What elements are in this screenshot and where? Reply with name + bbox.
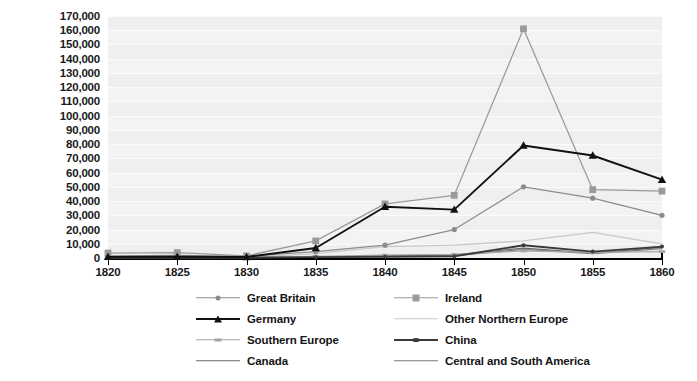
grid-band — [108, 215, 662, 229]
y-axis-tick-label: 70,000 — [66, 152, 100, 164]
grid-band — [108, 187, 662, 201]
x-axis-tick-mark — [662, 260, 663, 265]
grid-line — [108, 44, 662, 45]
legend-marker-square-icon — [413, 294, 420, 301]
legend-item[interactable]: Great Britain — [196, 288, 315, 307]
x-axis-tick-label: 1820 — [96, 266, 121, 278]
plot-area — [108, 16, 662, 258]
legend-swatch — [196, 313, 240, 325]
y-axis-tick-label: 130,000 — [60, 67, 100, 79]
y-axis-tick-label: 40,000 — [66, 195, 100, 207]
y-axis-tick-label: 30,000 — [66, 209, 100, 221]
grid-band — [108, 244, 662, 258]
legend-line-icon — [394, 318, 438, 320]
legend-item[interactable]: Other Northern Europe — [394, 309, 568, 328]
grid-line — [108, 116, 662, 117]
grid-line — [108, 73, 662, 74]
legend-label: Canada — [247, 355, 288, 367]
x-axis-tick-mark — [247, 260, 248, 265]
x-axis-tick-mark — [454, 260, 455, 265]
legend-label: Great Britain — [247, 292, 315, 304]
grid-line — [108, 87, 662, 88]
grid-band — [108, 158, 662, 172]
legend-marker-triangle-icon — [214, 315, 222, 322]
legend-swatch — [394, 355, 438, 367]
y-axis-tick-label: 120,000 — [60, 81, 100, 93]
y-axis-tick-label: 90,000 — [66, 124, 100, 136]
legend-marker-dash-icon — [215, 338, 222, 341]
x-axis-tick-label: 1845 — [442, 266, 467, 278]
y-axis-tick-label: 80,000 — [66, 138, 100, 150]
legend-marker-circle-icon — [216, 295, 221, 300]
x-axis-tick-mark — [593, 260, 594, 265]
grid-line — [108, 230, 662, 231]
y-axis-tick-label: 140,000 — [60, 53, 100, 65]
y-axis-labels: 010,00020,00030,00040,00050,00060,00070,… — [0, 10, 100, 264]
y-axis-tick-label: 170,000 — [60, 10, 100, 22]
y-axis-tick-label: 110,000 — [60, 95, 100, 107]
legend-swatch — [394, 292, 438, 304]
legend-swatch — [394, 313, 438, 325]
legend-label: Central and South America — [445, 355, 590, 367]
legend-swatch — [394, 334, 438, 346]
x-axis-tick-label: 1830 — [234, 266, 259, 278]
grid-line — [108, 173, 662, 174]
x-axis-tick-label: 1850 — [511, 266, 536, 278]
grid-line — [108, 158, 662, 159]
y-axis-tick-label: 100,000 — [60, 110, 100, 122]
legend-label: China — [445, 334, 476, 346]
grid-line — [108, 30, 662, 31]
legend-item[interactable]: Central and South America — [394, 351, 590, 370]
grid-band — [108, 44, 662, 58]
legend-item[interactable]: Germany — [196, 309, 296, 328]
grid-band — [108, 73, 662, 87]
x-axis-tick-mark — [524, 260, 525, 265]
y-axis-tick-label: 150,000 — [60, 38, 100, 50]
legend-swatch — [196, 355, 240, 367]
legend-marker-dot-icon — [412, 338, 420, 342]
grid-line — [108, 244, 662, 245]
legend-label: Ireland — [445, 292, 482, 304]
grid-line — [108, 101, 662, 102]
grid-band — [108, 16, 662, 30]
x-axis-tick-mark — [316, 260, 317, 265]
legend-swatch — [196, 334, 240, 346]
grid-line — [108, 201, 662, 202]
legend-line-icon — [196, 360, 240, 362]
x-axis-tick-label: 1840 — [373, 266, 398, 278]
grid-line — [108, 130, 662, 131]
legend-item[interactable]: Ireland — [394, 288, 482, 307]
legend-line-icon — [394, 360, 438, 362]
legend-item[interactable]: China — [394, 330, 476, 349]
y-axis-tick-label: 60,000 — [66, 167, 100, 179]
legend-swatch — [196, 292, 240, 304]
y-axis-tick-label: 50,000 — [66, 181, 100, 193]
y-axis-right-cap — [661, 252, 663, 260]
immigration-line-chart: 010,00020,00030,00040,00050,00060,00070,… — [0, 0, 697, 381]
y-axis-tick-label: 160,000 — [60, 24, 100, 36]
y-axis-left-cap — [107, 252, 109, 260]
grid-line — [108, 187, 662, 188]
legend-label: Southern Europe — [247, 334, 339, 346]
x-axis-tick-label: 1835 — [303, 266, 328, 278]
x-axis-tick-label: 1860 — [650, 266, 675, 278]
x-axis-tick-mark — [177, 260, 178, 265]
legend-item[interactable]: Canada — [196, 351, 288, 370]
y-axis-tick-label: 0 — [94, 252, 100, 264]
chart-legend: Great BritainIrelandGermanyOther Norther… — [196, 288, 666, 374]
grid-line — [108, 215, 662, 216]
grid-line — [108, 59, 662, 60]
x-axis-labels: 182018251830183518401845185018551860 — [0, 266, 697, 284]
x-axis-tick-mark — [108, 260, 109, 265]
y-axis-tick-label: 10,000 — [66, 238, 100, 250]
x-axis-tick-label: 1825 — [165, 266, 190, 278]
grid-band — [108, 130, 662, 144]
legend-item[interactable]: Southern Europe — [196, 330, 339, 349]
legend-label: Germany — [247, 313, 296, 325]
grid-line — [108, 16, 662, 17]
grid-line — [108, 144, 662, 145]
x-axis-tick-mark — [385, 260, 386, 265]
x-axis-tick-label: 1855 — [580, 266, 605, 278]
legend-label: Other Northern Europe — [445, 313, 568, 325]
y-axis-tick-label: 20,000 — [66, 224, 100, 236]
